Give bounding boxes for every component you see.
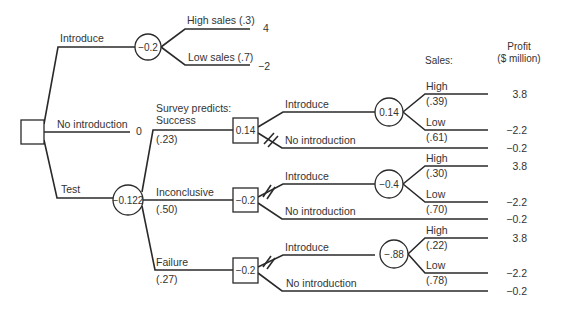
inconclusive-label-high: High [426,152,448,164]
label-inconclusive: Inconclusive [156,186,214,198]
failure-prob-high: (.22) [426,239,448,251]
label-low-sales: Low sales (.7) [188,51,253,63]
label-introduce: Introduce [60,32,104,44]
success-payoff-high: 3.8 [512,88,527,100]
failure-label-no-introduction: No introduction [286,277,357,289]
success-chance-value: 0.14 [379,107,399,118]
failure-chance-value: −.88 [384,249,404,260]
failure-payoff-no-introduction: −0.2 [506,285,527,297]
prob-failure: (.27) [156,273,178,285]
header-profit: Profit [507,41,531,52]
decision-tree: Introduce No introduction 0 Test −0.2 Hi… [0,0,561,315]
success-branch-low [403,112,488,130]
inconclusive-prob-high: (.30) [426,167,448,179]
label-test: Test [61,183,80,195]
payoff-high-sales: 4 [263,22,269,34]
inconclusive-label-introduce: Introduce [285,170,329,182]
survey-branches [142,130,233,270]
failure-payoff-high: 3.8 [512,232,527,244]
inconclusive-payoff-no-introduction: −0.2 [506,213,527,225]
failure-label-low: Low [426,259,446,271]
failure-branch-introduce [258,255,375,267]
failure-decision-value: −0.2 [236,265,256,276]
inconclusive-payoff-low: −2.2 [506,196,527,208]
label-survey-predicts: Survey predicts: [156,102,231,114]
inconclusive-label-low: Low [426,188,446,200]
success-label-introduce: Introduce [285,98,329,110]
payoff-no-introduction: 0 [136,125,142,137]
inconclusive-chance-value: −0.4 [379,179,399,190]
success-branch-introduce [258,112,375,127]
test-chance-value: −0.122 [113,195,144,206]
header-sales: Sales: [425,55,453,66]
success-decision-value: 0.14 [236,125,256,136]
inconclusive-branch-introduce [258,184,375,197]
success-label-low: Low [426,116,446,128]
failure-label-introduce: Introduce [285,241,329,253]
payoff-low-sales: −2 [258,60,270,72]
inconclusive-branch-low [403,184,488,202]
root-decision-node [21,120,44,144]
label-high-sales: High sales (.3) [187,14,255,26]
success-prob-high: (.39) [426,95,448,107]
failure-prob-low: (.78) [426,274,448,286]
header-profit-unit: ($ million) [497,53,540,64]
inconclusive-payoff-high: 3.8 [512,160,527,172]
failure-payoff-low: −2.2 [506,267,527,279]
label-success: Success [156,114,196,126]
inconclusive-prob-low: (.70) [426,203,448,215]
failure-branch-low [408,254,488,273]
branch-introduce [44,47,135,124]
prob-inconclusive: (.50) [156,203,178,215]
success-payoff-low: −2.2 [506,124,527,136]
prob-success: (.23) [156,133,178,145]
failure-label-high: High [426,224,448,236]
success-payoff-no-introduction: −0.2 [506,142,527,154]
inconclusive-label-no-introduction: No introduction [285,205,356,217]
success-prob-low: (.61) [426,131,448,143]
branch-high-sales [161,29,250,47]
success-label-high: High [426,80,448,92]
success-label-no-introduction: No introduction [285,134,356,146]
failure-branch-high [408,238,488,254]
inconclusive-decision-value: −0.2 [236,195,256,206]
introduce-chance-value: −0.2 [138,42,158,53]
label-failure: Failure [156,256,188,268]
label-no-introduction: No introduction [57,118,128,130]
